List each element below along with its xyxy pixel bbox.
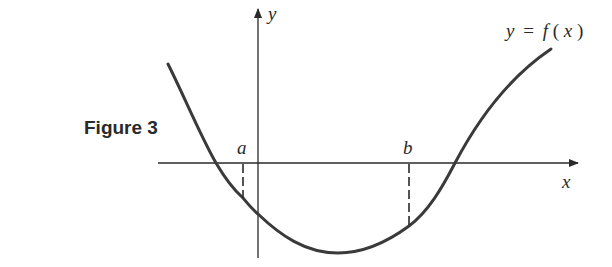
curve-equation-label: y = f ( x ) [504, 20, 583, 42]
function-curve [168, 49, 551, 253]
point-b-label: b [403, 137, 413, 158]
x-axis-label: x [561, 171, 571, 192]
figure-canvas: Figure 3 y x a b y = f ( x ) [0, 0, 612, 267]
point-a-label: a [237, 137, 247, 158]
graph: y x a b y = f ( x ) [0, 0, 612, 267]
y-axis-label: y [266, 3, 277, 24]
